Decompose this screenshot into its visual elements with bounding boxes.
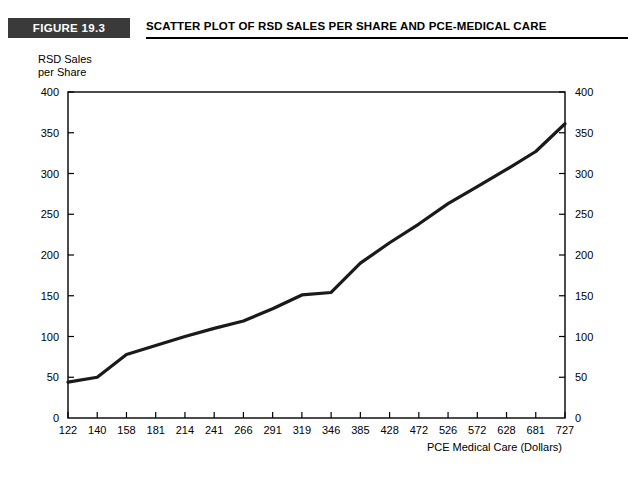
y-tick-label-right: 200: [575, 249, 593, 261]
x-tick-label: 291: [263, 424, 281, 436]
x-tick-label: 158: [117, 424, 135, 436]
x-tick-label: 214: [176, 424, 194, 436]
y-tick-label-right: 150: [575, 290, 593, 302]
x-tick-label: 140: [88, 424, 106, 436]
y-tick-label-right: 400: [575, 86, 593, 98]
y-tick-label-right: 0: [575, 412, 581, 424]
x-tick-label: 266: [234, 424, 252, 436]
y-tick-label-left: 100: [41, 331, 59, 343]
y-tick-label-left: 300: [41, 168, 59, 180]
y-tick-label-right: 100: [575, 331, 593, 343]
y-tick-label-right: 350: [575, 127, 593, 139]
scatter-line-chart: 0050501001001501502002002502503003003503…: [0, 0, 642, 477]
y-tick-label-left: 50: [47, 371, 59, 383]
data-series-line: [68, 124, 565, 382]
x-tick-label: 181: [147, 424, 165, 436]
x-tick-label: 428: [380, 424, 398, 436]
x-tick-label: 385: [351, 424, 369, 436]
y-tick-label-left: 350: [41, 127, 59, 139]
x-tick-label: 727: [556, 424, 574, 436]
y-tick-label-left: 200: [41, 249, 59, 261]
x-axis-title: PCE Medical Care (Dollars): [427, 441, 562, 453]
x-tick-label: 122: [59, 424, 77, 436]
y-tick-label-left: 0: [53, 412, 59, 424]
y-tick-label-left: 250: [41, 208, 59, 220]
x-tick-label: 346: [322, 424, 340, 436]
x-tick-label: 526: [439, 424, 457, 436]
y-tick-label-left: 400: [41, 86, 59, 98]
y-tick-label-left: 150: [41, 290, 59, 302]
y-tick-label-right: 250: [575, 208, 593, 220]
x-tick-label: 241: [205, 424, 223, 436]
chart-plot-area: 0050501001001501502002002502503003003503…: [0, 0, 642, 477]
x-tick-label: 319: [293, 424, 311, 436]
y-tick-label-right: 300: [575, 168, 593, 180]
x-tick-label: 681: [527, 424, 545, 436]
y-tick-label-right: 50: [575, 371, 587, 383]
x-tick-label: 628: [497, 424, 515, 436]
x-tick-label: 572: [468, 424, 486, 436]
plot-frame: [68, 92, 565, 418]
x-tick-label: 472: [410, 424, 428, 436]
